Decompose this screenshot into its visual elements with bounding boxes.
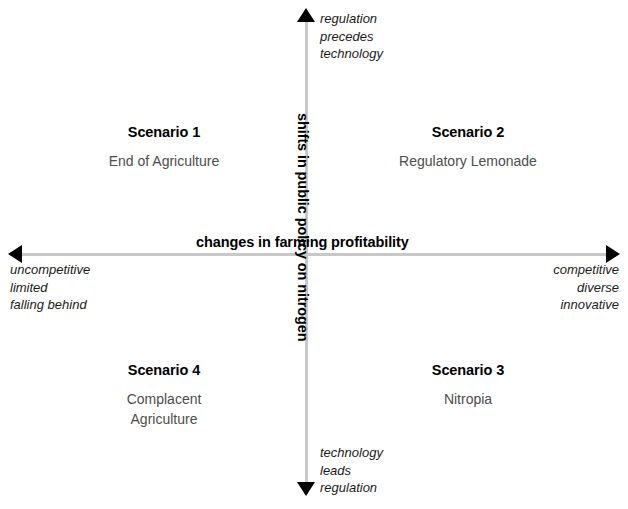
pole-line: uncompetitive — [10, 261, 90, 279]
scenario-name-line: End of Agriculture — [62, 151, 266, 171]
vertical-axis-positive-pole: regulation precedes technology — [320, 10, 383, 63]
scenario-1-name: End of Agriculture — [62, 151, 266, 171]
scenario-2-name: Regulatory Lemonade — [356, 151, 580, 171]
pole-line: leads — [320, 462, 383, 480]
horizontal-axis-positive-pole: competitive diverse innovative — [553, 261, 619, 314]
arrow-down-icon — [297, 482, 315, 496]
scenario-2-title: Scenario 2 — [356, 123, 580, 142]
scenario-1-title: Scenario 1 — [62, 123, 266, 142]
scenario-name-line: Nitropia — [356, 389, 580, 409]
pole-line: falling behind — [10, 296, 90, 314]
scenario-matrix-diagram: changes in farming profitability shifts … — [0, 0, 628, 509]
horizontal-axis-negative-pole: uncompetitive limited falling behind — [10, 261, 90, 314]
scenario-4-title: Scenario 4 — [62, 361, 266, 380]
pole-line: precedes — [320, 28, 383, 46]
pole-line: regulation — [320, 10, 383, 28]
pole-line: limited — [10, 279, 90, 297]
pole-line: regulation — [320, 479, 383, 497]
pole-line: technology — [320, 45, 383, 63]
horizontal-axis-line — [18, 253, 610, 256]
quadrant-bottom-left: Scenario 4 Complacent Agriculture — [62, 361, 266, 429]
scenario-name-line: Agriculture — [62, 409, 266, 429]
quadrant-top-right: Scenario 2 Regulatory Lemonade — [356, 123, 580, 171]
scenario-name-line: Regulatory Lemonade — [356, 151, 580, 171]
pole-line: technology — [320, 444, 383, 462]
scenario-3-name: Nitropia — [356, 389, 580, 409]
scenario-3-title: Scenario 3 — [356, 361, 580, 380]
vertical-axis-title: shifts in public policy on nitrogen — [295, 113, 311, 342]
pole-line: diverse — [553, 279, 619, 297]
scenario-4-name: Complacent Agriculture — [62, 389, 266, 429]
quadrant-top-left: Scenario 1 End of Agriculture — [62, 123, 266, 171]
quadrant-bottom-right: Scenario 3 Nitropia — [356, 361, 580, 409]
scenario-name-line: Complacent — [62, 389, 266, 409]
pole-line: innovative — [553, 296, 619, 314]
arrow-up-icon — [297, 8, 315, 22]
pole-line: competitive — [553, 261, 619, 279]
vertical-axis-negative-pole: technology leads regulation — [320, 444, 383, 497]
